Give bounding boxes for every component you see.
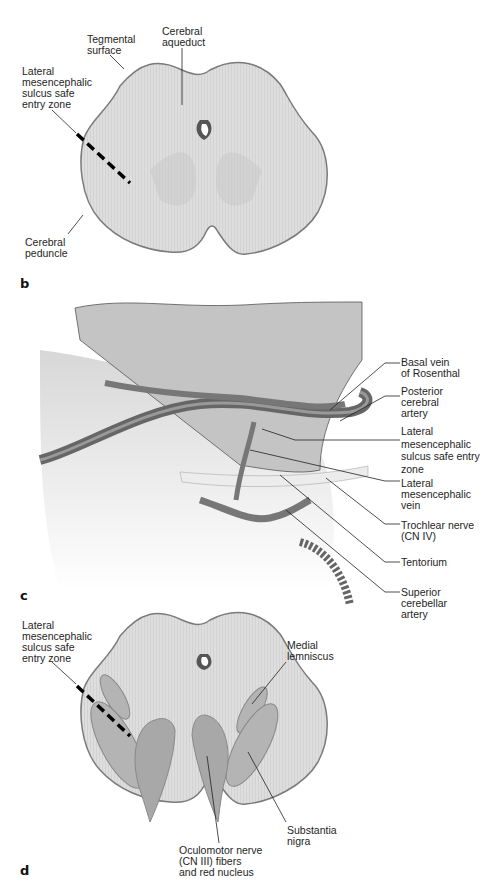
panel-d: Lateral mesencephalic sulcus safe entry … <box>0 600 504 891</box>
label-basal-vein-of-rosenthal: Basal vein of Rosenthal <box>401 357 460 379</box>
label-lateral-mesencephalic-vein: Lateral mesencephalic vein <box>401 478 471 511</box>
red-nucleus-left <box>135 719 175 822</box>
label-oculomotor-nerve: Oculomotor nerve (CN III) fibers and red… <box>179 845 262 878</box>
label-safe-entry-zone-d: Lateral mesencephalic sulcus safe entry … <box>22 620 92 664</box>
label-posterior-cerebral-artery: Posterior cerebral artery <box>401 386 443 419</box>
midbrain-cross-section-b <box>0 0 504 300</box>
panel-c: Basal vein of Rosenthal Posterior cerebr… <box>0 300 504 610</box>
label-tegmental-surface: Tegmental surface <box>87 34 135 56</box>
label-safe-entry-zone-c: Lateral mesencephalic sulcus safe entry … <box>401 425 480 476</box>
panel-letter-d: d <box>20 863 29 878</box>
label-trochlear-nerve: Trochlear nerve (CN IV) <box>401 520 474 542</box>
label-substantia-nigra: Substantia nigra <box>287 825 337 847</box>
label-cerebral-aqueduct: Cerebral aqueduct <box>162 26 205 48</box>
panel-b: Tegmental surface Cerebral aqueduct Late… <box>0 0 504 300</box>
panel-letter-b: b <box>20 276 29 291</box>
label-safe-entry-zone: Lateral mesencephalic sulcus safe entry … <box>22 66 92 110</box>
label-medial-lemniscus: Medial lemniscus <box>287 640 334 662</box>
label-cerebral-peduncle: Cerebral peduncle <box>25 237 68 259</box>
label-tentorium: Tentorium <box>401 557 447 568</box>
